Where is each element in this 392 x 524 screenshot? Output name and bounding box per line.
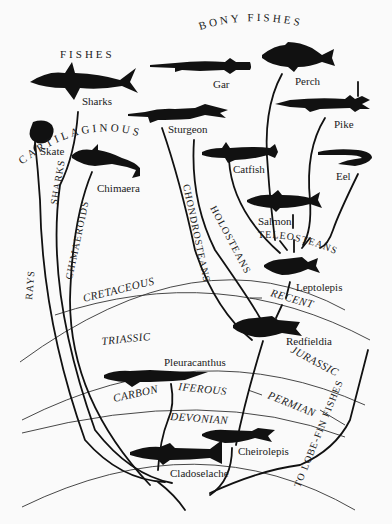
label-pike: Pike [334,118,354,130]
stratum-line-8 [248,390,262,395]
period-label-permian: PERMIAN [265,388,317,418]
eel-icon [318,149,372,166]
label-perch: Perch [295,75,321,87]
sharks-lineage [57,112,172,483]
label-chimaera: Chimaera [97,182,140,194]
group-label-sharks: SHARKS [48,159,67,206]
pike-lineage [303,118,325,245]
cladoselache-lineage [158,482,185,510]
label-leptolepis: Leptolepis [296,281,342,293]
period-label-devonian: DEVONIAN [169,410,229,426]
heading-cartilaginous-fishes: FISHES [60,48,115,60]
label-sharks: Sharks [82,95,112,107]
label-sturgeon: Sturgeon [168,123,208,135]
label-eel: Eel [336,170,351,182]
chimaera-icon [72,144,140,178]
label-skate: Skate [40,145,65,157]
redfieldia-icon [233,316,302,337]
leptolepis-icon [264,257,320,275]
stratum-line-2 [55,293,370,340]
period-label-cretaceous: CRETACEOUS [82,275,156,304]
gar-icon [150,58,251,74]
group-label-rays: RAYS [23,270,37,301]
label-cladoselache: Cladoselache [170,467,229,479]
pike-icon [275,95,370,112]
fish-evolution-diagram: CARTILAGINOUS FISHES BONY FISHES Sharks … [0,0,392,524]
label-gar: Gar [213,78,230,90]
heading-bony-fishes: BONY FISHES [197,11,304,32]
group-label-chimaeroids: CHIMAEROIDS [63,199,90,280]
group-label-lobe-fin: TO LOBE-FIN FISHES [292,378,345,489]
period-label-triassic: TRIASSIC [101,330,151,347]
eel-lineage [320,174,358,248]
perch-icon [262,42,335,72]
period-label-carbon: CARBON [112,383,159,404]
label-catfish: Catfish [233,163,265,175]
label-cheirolepis: Cheirolepis [238,445,289,457]
cladoselache-icon [130,440,222,465]
label-pleuracanthus: Pleuracanthus [164,356,226,368]
period-label-iferous: IFEROUS [177,380,228,397]
label-salmon: Salmon [258,215,292,227]
sturgeon-icon [128,104,228,123]
period-label-jurassic: JURASSIC [289,343,341,378]
